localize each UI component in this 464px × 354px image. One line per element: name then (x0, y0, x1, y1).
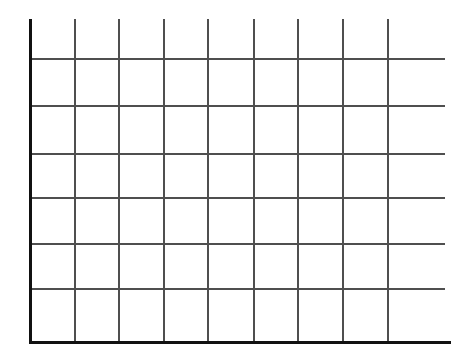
gridline-vertical-7 (342, 19, 344, 341)
y-axis-spine (29, 19, 32, 344)
chart-figure (0, 0, 464, 354)
gridline-horizontal-6 (31, 288, 445, 290)
gridline-vertical-8 (387, 19, 389, 341)
gridline-horizontal-1 (31, 58, 445, 60)
gridline-vertical-3 (163, 19, 165, 341)
gridline-vertical-4 (207, 19, 209, 341)
gridline-horizontal-5 (31, 243, 445, 245)
x-axis-spine (29, 341, 451, 344)
gridline-vertical-1 (74, 19, 76, 341)
gridline-vertical-2 (118, 19, 120, 341)
gridline-horizontal-4 (31, 197, 445, 199)
gridline-vertical-6 (297, 19, 299, 341)
gridline-horizontal-2 (31, 105, 445, 107)
gridline-horizontal-3 (31, 153, 445, 155)
gridline-vertical-5 (253, 19, 255, 341)
plot-area[interactable] (0, 0, 464, 354)
